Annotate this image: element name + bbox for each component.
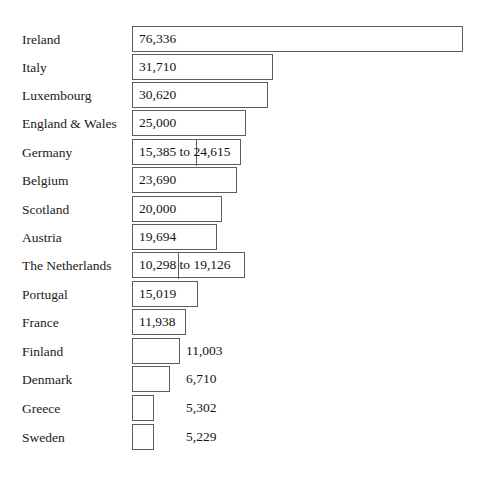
category-label: Scotland bbox=[22, 196, 69, 224]
bar-value-label: 15,385 to 24,615 bbox=[139, 139, 231, 165]
bar-row: Finland11,003 bbox=[0, 338, 490, 366]
category-label: Portugal bbox=[22, 281, 68, 309]
bar-row: England & Wales25,000 bbox=[0, 110, 490, 138]
bar-row: Denmark6,710 bbox=[0, 366, 490, 394]
bar-value-label: 6,710 bbox=[186, 366, 216, 392]
category-label: Italy bbox=[22, 54, 47, 82]
bar-value-label: 23,690 bbox=[139, 167, 176, 193]
category-label: Finland bbox=[22, 338, 63, 366]
bar-row: Austria19,694 bbox=[0, 224, 490, 252]
bar-chart: Ireland76,336Italy31,710Luxembourg30,620… bbox=[0, 0, 490, 477]
bar-value-label: 11,003 bbox=[186, 338, 223, 364]
bar-value-label: 31,710 bbox=[139, 54, 176, 80]
bar-value-label: 11,938 bbox=[139, 309, 176, 335]
category-label: Denmark bbox=[22, 366, 72, 394]
bar-row: The Netherlands10,298 to 19,126 bbox=[0, 252, 490, 280]
category-label: France bbox=[22, 309, 59, 337]
bar bbox=[132, 338, 180, 364]
bar-row: Sweden5,229 bbox=[0, 424, 490, 452]
category-label: Belgium bbox=[22, 167, 69, 195]
bar-row: Belgium23,690 bbox=[0, 167, 490, 195]
bar-value-label: 19,694 bbox=[139, 224, 176, 250]
bar-value-label: 25,000 bbox=[139, 110, 176, 136]
bar bbox=[132, 395, 154, 421]
category-label: Austria bbox=[22, 224, 62, 252]
bar-row: Italy31,710 bbox=[0, 54, 490, 82]
category-label: Sweden bbox=[22, 424, 65, 452]
bar-row: Ireland76,336 bbox=[0, 26, 490, 54]
bar-value-label: 76,336 bbox=[139, 26, 176, 52]
bar-value-label: 5,229 bbox=[186, 424, 216, 450]
bar-value-label: 20,000 bbox=[139, 196, 176, 222]
bar bbox=[132, 424, 154, 450]
bar-row: Germany15,385 to 24,615 bbox=[0, 139, 490, 167]
bar-row: Scotland20,000 bbox=[0, 196, 490, 224]
category-label: Greece bbox=[22, 395, 60, 423]
bar bbox=[132, 26, 463, 52]
bar-value-label: 5,302 bbox=[186, 395, 216, 421]
category-label: Ireland bbox=[22, 26, 60, 54]
category-label: Luxembourg bbox=[22, 82, 92, 110]
bar-row: Greece5,302 bbox=[0, 395, 490, 423]
bar-value-label: 15,019 bbox=[139, 281, 176, 307]
bar bbox=[132, 366, 170, 392]
plot-area: Ireland76,336Italy31,710Luxembourg30,620… bbox=[0, 0, 490, 477]
bar-row: Luxembourg30,620 bbox=[0, 82, 490, 110]
category-label: The Netherlands bbox=[22, 252, 112, 280]
category-label: Germany bbox=[22, 139, 72, 167]
bar-row: France11,938 bbox=[0, 309, 490, 337]
bar-row: Portugal15,019 bbox=[0, 281, 490, 309]
bar-value-label: 10,298 to 19,126 bbox=[139, 252, 231, 278]
category-label: England & Wales bbox=[22, 110, 117, 138]
bar-value-label: 30,620 bbox=[139, 82, 176, 108]
